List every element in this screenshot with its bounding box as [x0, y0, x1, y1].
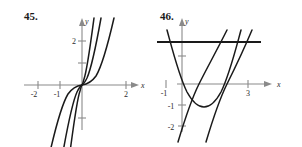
y-axis-label-45: y	[84, 17, 89, 26]
x-tick-label-neg1-46: -1	[161, 89, 168, 98]
x-axis-label-46: x	[276, 80, 281, 89]
exercise-panel-46: 46. x y -1 3 -1	[151, 0, 302, 147]
y-tick-label-neg1-46: -1	[168, 102, 175, 111]
x-tick-label-3-46: 3	[246, 89, 250, 98]
exercise-panel-45: 45. x y -2 -1	[0, 0, 151, 147]
curve-steep-left-46	[178, 30, 227, 142]
y-tick-label-neg2-46: -2	[168, 123, 175, 132]
graph-45: x y -2 -1 2 2	[0, 0, 151, 147]
curve-steep-right-46	[206, 30, 252, 142]
x-tick-label-neg2-45: -2	[31, 90, 38, 99]
x-axis-label-45: x	[140, 81, 145, 90]
textbook-figure-page: 45. x y -2 -1	[0, 0, 302, 147]
y-tick-label-2-45: 2	[72, 37, 76, 46]
y-axis-label-46: y	[184, 17, 189, 26]
x-tick-label-2-45: 2	[124, 90, 128, 99]
graph-46: x y -1 3 -1 -2	[151, 0, 302, 147]
y-axis-45	[79, 18, 85, 130]
x-tick-label-neg1-45: -1	[54, 90, 61, 99]
